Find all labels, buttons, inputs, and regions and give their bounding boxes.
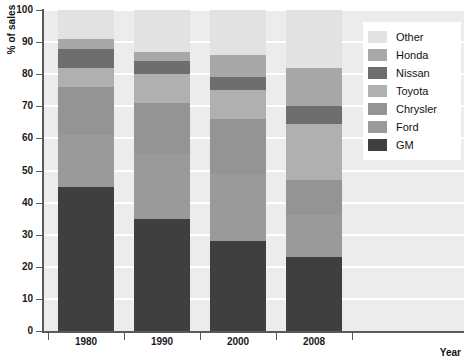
legend: OtherHondaNissanToyotaChryslerFordGM (363, 22, 461, 160)
bar-segment (134, 154, 190, 218)
legend-swatch-icon (368, 31, 387, 43)
bar-segment (134, 219, 190, 331)
bar-segment (210, 241, 266, 331)
legend-item-label: Chrysler (396, 103, 437, 115)
y-tick-label: 60 (0, 132, 33, 143)
legend-item-label: Nissan (396, 67, 430, 79)
y-tick-mark (36, 171, 42, 172)
legend-swatch-icon (368, 103, 387, 115)
bar-segment (286, 10, 342, 68)
y-tick-label: 20 (0, 261, 33, 272)
x-axis-line (42, 331, 464, 333)
legend-swatch-icon (368, 139, 387, 151)
y-tick-label: 70 (0, 100, 33, 111)
legend-item[interactable]: Honda (368, 46, 457, 63)
bar-segment (134, 52, 190, 62)
y-tick-mark (36, 299, 42, 300)
y-tick-mark (36, 331, 42, 332)
x-tick-label: 1990 (132, 336, 192, 347)
legend-swatch-icon (368, 85, 387, 97)
bar-group (210, 10, 266, 331)
y-tick-mark (36, 10, 42, 11)
legend-item-label: Ford (396, 121, 419, 133)
x-tick-mark (352, 333, 353, 340)
legend-item-label: Toyota (396, 85, 428, 97)
x-tick-label: 2008 (284, 336, 344, 347)
legend-swatch-icon (368, 67, 387, 79)
legend-item[interactable]: Ford (368, 118, 457, 135)
y-tick-label: 40 (0, 197, 33, 208)
y-axis-title: % of sales (6, 0, 17, 65)
bar-segment (210, 174, 266, 241)
bar-segment (210, 119, 266, 174)
bar-segment (210, 90, 266, 119)
legend-item-label: Other (396, 31, 424, 43)
bar-segment (286, 180, 342, 215)
y-tick-label: 0 (0, 325, 33, 336)
bar-segment (58, 187, 114, 331)
legend-swatch-icon (368, 121, 387, 133)
bar-segment (58, 135, 114, 186)
legend-swatch-icon (368, 49, 387, 61)
bar-segment (286, 257, 342, 331)
bar-segment (286, 106, 342, 124)
bar-segment (134, 61, 190, 74)
legend-item[interactable]: GM (368, 136, 457, 153)
y-axis-line (42, 9, 44, 332)
bar-segment (134, 103, 190, 154)
bar-segment (210, 10, 266, 55)
bar-group (58, 10, 114, 331)
y-tick-label: 50 (0, 165, 33, 176)
y-tick-label: 10 (0, 293, 33, 304)
x-tick-mark (276, 333, 277, 340)
x-tick-label: 1980 (56, 336, 116, 347)
x-tick-mark (124, 333, 125, 340)
bar-segment (58, 39, 114, 49)
y-tick-label: 30 (0, 229, 33, 240)
y-tick-mark (36, 42, 42, 43)
bar-segment (286, 124, 342, 180)
legend-item-label: GM (396, 139, 414, 151)
x-tick-mark (48, 333, 49, 340)
y-tick-label: 80 (0, 68, 33, 79)
stacked-bar-chart: 0102030405060708090100 1980199020002008 … (0, 0, 464, 360)
bar-group (134, 10, 190, 331)
bar-segment (210, 77, 266, 90)
y-tick-mark (36, 138, 42, 139)
legend-item[interactable]: Toyota (368, 82, 457, 99)
bar-segment (286, 68, 342, 107)
bar-segment (58, 10, 114, 39)
bar-segment (58, 68, 114, 87)
legend-item[interactable]: Other (368, 28, 457, 45)
y-tick-mark (36, 203, 42, 204)
legend-item[interactable]: Chrysler (368, 100, 457, 117)
y-tick-mark (36, 106, 42, 107)
x-tick-label: 2000 (208, 336, 268, 347)
bar-segment (134, 74, 190, 103)
y-tick-mark (36, 74, 42, 75)
y-tick-mark (36, 267, 42, 268)
legend-item[interactable]: Nissan (368, 64, 457, 81)
legend-item-label: Honda (396, 49, 428, 61)
bar-segment (210, 55, 266, 77)
x-tick-mark (200, 333, 201, 340)
bar-segment (286, 215, 342, 257)
bar-segment (134, 10, 190, 52)
bar-segment (58, 49, 114, 68)
bar-segment (58, 87, 114, 135)
y-tick-mark (36, 235, 42, 236)
bar-group (286, 10, 342, 331)
x-axis-title: Year (440, 347, 461, 358)
